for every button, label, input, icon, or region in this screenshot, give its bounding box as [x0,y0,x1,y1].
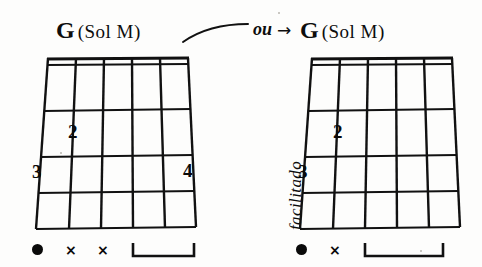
fret-line-left-3 [38,191,195,193]
string-left-5 [69,58,76,229]
marker-left-mute-1: × [65,243,77,257]
fret-line-left-4 [36,227,196,229]
string-left-1 [188,58,196,227]
bracket-left [133,243,194,256]
string-right-1 [452,58,460,227]
string-left-2 [160,58,165,228]
scan-speck [278,12,280,14]
scan-speck [60,152,62,154]
fret-line-right-0 [311,64,453,65]
connector-curve [183,24,248,42]
marker-left-mute-2: × [97,243,109,257]
finger-number-right-2: 2 [333,122,343,141]
fret-line-left-0 [47,64,189,65]
chord-chart-page: G(Sol M) ou → G(Sol M) facilitado [0,0,482,267]
marker-left-root-dot [32,244,43,255]
nut-line-right [311,58,453,59]
finger-number-left-4: 4 [183,161,193,180]
fret-line-right-2 [305,155,457,157]
string-left-3 [132,58,133,228]
fret-line-right-4 [300,227,460,229]
string-right-5 [333,58,340,229]
finger-number-left-2: 2 [68,122,78,141]
string-left-4 [101,58,104,228]
fret-line-right-3 [302,191,459,193]
fretboard-right [300,58,460,229]
string-right-6 [300,58,312,229]
string-right-2 [424,58,429,228]
nut-line-left [47,58,189,59]
scan-speck [420,250,422,252]
fret-line-right-1 [308,109,455,111]
string-right-4 [365,58,368,228]
finger-number-right-3: 3 [298,162,308,181]
string-right-3 [396,58,397,228]
bracket-right [365,243,443,256]
finger-number-left-3: 3 [32,162,42,181]
fretboard-left [36,58,196,229]
marker-right-mute-1: × [329,243,341,257]
fret-line-left-2 [41,155,193,157]
fret-line-left-1 [44,109,191,111]
string-left-6 [36,58,48,229]
marker-right-root-dot [296,244,307,255]
